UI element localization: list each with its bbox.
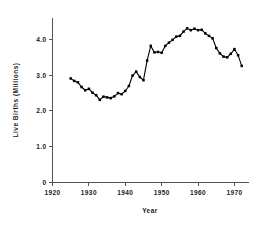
data-point-marker [175,35,178,38]
data-point-marker [237,54,240,57]
data-point-marker [131,74,134,77]
data-point-marker [106,96,109,99]
data-point-marker [179,35,182,38]
x-tick-label: 1940 [117,189,133,196]
data-point-marker [113,95,116,98]
data-point-marker [168,41,171,44]
data-point-marker [160,51,163,54]
data-point-marker [200,29,203,32]
data-point-marker [182,30,185,33]
data-point-marker [80,86,83,89]
x-tick-label: 1930 [81,189,97,196]
x-tick-label: 1960 [190,189,206,196]
series-line-live-births [71,28,242,100]
data-point-marker [153,51,156,54]
data-point-marker [120,93,123,96]
data-point-marker [150,45,153,48]
data-point-marker [186,27,189,30]
data-point-marker [124,90,127,93]
data-point-marker [69,77,72,80]
x-tick-label: 1920 [44,189,60,196]
data-point-marker [139,76,142,79]
data-point-marker [128,85,131,88]
data-point-marker [197,29,200,32]
data-point-marker [211,37,214,40]
data-point-marker [193,27,196,30]
data-point-marker [215,47,218,50]
y-tick-label: 4.0 [36,36,46,43]
series-markers-live-births [69,27,243,101]
data-point-marker [208,35,211,38]
data-point-marker [102,95,105,98]
x-axis-ticks: 192019301940195019601970 [44,183,242,196]
data-point-marker [77,81,80,84]
data-point-marker [142,79,145,82]
data-point-marker [73,80,76,83]
data-point-marker [219,52,222,55]
data-point-marker [164,45,167,48]
data-point-marker [233,48,236,51]
chart-plot-area: 01.02.03.04.0 192019301940195019601970 Y… [0,0,261,227]
data-point-marker [91,91,94,94]
data-point-marker [230,53,233,56]
y-tick-label: 0 [42,179,46,186]
data-point-marker [95,94,98,97]
data-point-marker [117,92,120,95]
data-point-marker [84,89,87,92]
y-tick-label: 2.0 [36,107,46,114]
data-point-marker [222,55,225,58]
live-births-line-chart: 01.02.03.04.0 192019301940195019601970 Y… [0,0,261,227]
data-point-marker [226,56,229,59]
data-point-marker [88,88,91,91]
chart-axes [53,18,250,183]
data-point-marker [171,39,174,42]
data-point-marker [157,51,160,54]
y-axis-title: Live Births (Millions) [12,63,20,138]
y-axis-ticks: 01.02.03.04.0 [36,36,52,186]
y-tick-label: 3.0 [36,72,46,79]
data-point-marker [204,32,207,35]
data-point-marker [146,59,149,62]
data-point-marker [240,65,243,68]
data-point-marker [99,99,102,102]
x-tick-label: 1970 [226,189,242,196]
x-axis-title: Year [142,207,158,214]
y-tick-label: 1.0 [36,143,46,150]
data-point-marker [190,29,193,32]
data-point-marker [135,70,138,73]
x-tick-label: 1950 [154,189,170,196]
data-point-marker [109,97,112,100]
